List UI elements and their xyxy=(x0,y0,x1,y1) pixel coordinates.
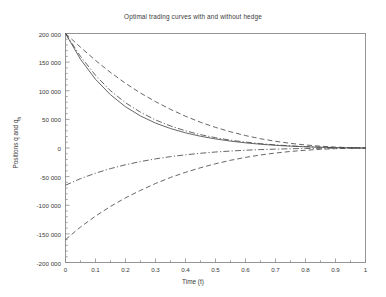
plot-area xyxy=(0,0,386,297)
series-line xyxy=(66,34,366,149)
chart-figure: Optimal trading curves with and without … xyxy=(0,0,386,297)
series-line xyxy=(66,148,366,240)
data-series-group xyxy=(66,34,366,240)
series-line xyxy=(66,148,366,185)
